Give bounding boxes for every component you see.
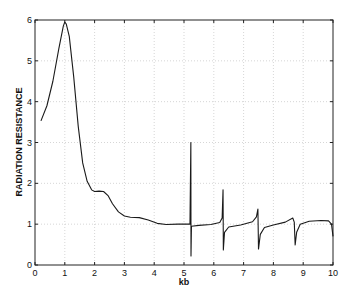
x-axis-title: kb (179, 277, 190, 287)
y-tick-label: 2 (27, 178, 32, 188)
x-tick-label: 7 (241, 268, 246, 278)
radiation-resistance-chart: 012345678910 0123456 kb RADIATION RESIST… (0, 0, 353, 301)
x-tick-label: 2 (92, 268, 97, 278)
x-tick-label: 8 (271, 268, 276, 278)
x-tick-label: 10 (328, 268, 338, 278)
y-axis-title: RADIATION RESISTANCE (14, 87, 24, 196)
x-tick-label: 9 (301, 268, 306, 278)
x-tick-label: 1 (62, 268, 67, 278)
y-tick-label: 3 (27, 138, 32, 148)
y-tick-label: 1 (27, 219, 32, 229)
x-tick-label: 6 (211, 268, 216, 278)
x-tick-label: 3 (122, 268, 127, 278)
x-tick-label: 4 (152, 268, 157, 278)
y-tick-label: 0 (27, 260, 32, 270)
y-tick-label: 4 (27, 97, 32, 107)
data-line (41, 22, 333, 256)
y-tick-label: 5 (27, 56, 32, 66)
x-tick-label: 0 (32, 268, 37, 278)
y-tick-label: 6 (27, 15, 32, 25)
y-tick-labels: 0123456 (27, 15, 32, 270)
